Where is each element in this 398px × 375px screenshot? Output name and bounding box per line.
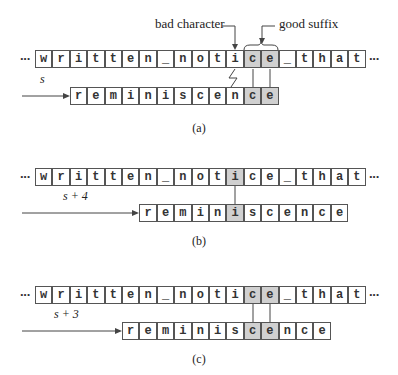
pattern-cell: i xyxy=(226,204,243,222)
text-cell: t xyxy=(296,168,313,186)
text-cell: _ xyxy=(157,50,174,68)
text-cell: r xyxy=(52,286,69,304)
text-cell: e xyxy=(122,286,139,304)
text-cell: t xyxy=(296,50,313,68)
pattern-cell: e xyxy=(261,322,278,340)
text-cell: t xyxy=(296,286,313,304)
text-cell: i xyxy=(70,168,87,186)
ellipsis-right: ··· xyxy=(369,287,379,302)
pattern-cell: e xyxy=(313,322,330,340)
text-cell: t xyxy=(348,168,365,186)
pattern-cell: r xyxy=(70,87,87,105)
pattern-cell: m xyxy=(157,322,174,340)
text-cell: o xyxy=(192,50,209,68)
text-cell: t xyxy=(348,286,365,304)
pattern-cell: i xyxy=(192,204,209,222)
text-cell: n xyxy=(139,286,156,304)
pattern-cell: n xyxy=(279,322,296,340)
text-cell: c xyxy=(244,50,261,68)
text-cell: w xyxy=(35,168,52,186)
pattern-cell: e xyxy=(139,322,156,340)
text-cell: n xyxy=(139,50,156,68)
pattern-cell: n xyxy=(209,204,226,222)
text-cell: t xyxy=(105,286,122,304)
text-cell: t xyxy=(87,168,104,186)
pattern-cell: e xyxy=(279,204,296,222)
ellipsis-left: ··· xyxy=(20,287,30,302)
pattern-cell: i xyxy=(209,322,226,340)
text-cell: n xyxy=(139,168,156,186)
text-cell: t xyxy=(105,50,122,68)
text-cell: h xyxy=(313,168,330,186)
text-cell: o xyxy=(192,286,209,304)
text-cell: t xyxy=(209,286,226,304)
text-cell: t xyxy=(209,50,226,68)
pattern-cell: e xyxy=(331,204,348,222)
text-cell: _ xyxy=(279,286,296,304)
pattern-cell: e xyxy=(157,204,174,222)
ellipsis-left: ··· xyxy=(20,169,30,184)
pattern-cell: i xyxy=(174,322,191,340)
pattern-cell: e xyxy=(87,87,104,105)
pattern-cell: n xyxy=(296,204,313,222)
text-cell: a xyxy=(331,50,348,68)
text-cell: r xyxy=(52,168,69,186)
pattern-cell: r xyxy=(122,322,139,340)
text-cell: e xyxy=(122,50,139,68)
pattern-cell: c xyxy=(244,322,261,340)
pattern-cell: c xyxy=(296,322,313,340)
text-cell: t xyxy=(87,50,104,68)
pattern-cell: s xyxy=(226,322,243,340)
text-cell: a xyxy=(331,286,348,304)
ellipsis-right: ··· xyxy=(369,51,379,66)
text-cell: i xyxy=(226,50,243,68)
pattern-cell: s xyxy=(174,87,191,105)
text-cell: e xyxy=(122,168,139,186)
text-cell: t xyxy=(348,50,365,68)
text-cell: w xyxy=(35,50,52,68)
text-cell: h xyxy=(313,50,330,68)
text-cell: e xyxy=(261,50,278,68)
text-cell: t xyxy=(87,286,104,304)
text-cell: _ xyxy=(157,168,174,186)
text-cell: e xyxy=(261,168,278,186)
pattern-cell: c xyxy=(261,204,278,222)
pattern-cell: m xyxy=(105,87,122,105)
text-cell: _ xyxy=(279,50,296,68)
pattern-cell: i xyxy=(122,87,139,105)
pattern-cell: m xyxy=(174,204,191,222)
text-cell: _ xyxy=(157,286,174,304)
text-cell: c xyxy=(244,286,261,304)
text-cell: i xyxy=(70,50,87,68)
text-cell: t xyxy=(105,168,122,186)
pattern-cell: n xyxy=(226,87,243,105)
text-cell: n xyxy=(174,168,191,186)
text-cell: i xyxy=(70,286,87,304)
pattern-cell: e xyxy=(261,87,278,105)
text-cell: n xyxy=(174,286,191,304)
text-cell: o xyxy=(192,168,209,186)
pattern-cell: c xyxy=(244,87,261,105)
pattern-cell: n xyxy=(192,322,209,340)
ellipsis-left: ··· xyxy=(20,51,30,66)
text-cell: r xyxy=(52,50,69,68)
text-cell: t xyxy=(209,168,226,186)
pattern-cell: n xyxy=(139,87,156,105)
pattern-cell: c xyxy=(313,204,330,222)
pattern-cell: e xyxy=(209,87,226,105)
pattern-cell: r xyxy=(139,204,156,222)
pattern-cell: i xyxy=(157,87,174,105)
text-cell: n xyxy=(174,50,191,68)
text-cell: i xyxy=(226,168,243,186)
text-cell: h xyxy=(313,286,330,304)
text-cell: e xyxy=(261,286,278,304)
pattern-cell: c xyxy=(192,87,209,105)
text-cell: a xyxy=(331,168,348,186)
text-cell: w xyxy=(35,286,52,304)
ellipsis-right: ··· xyxy=(369,169,379,184)
text-cell: i xyxy=(226,286,243,304)
text-cell: _ xyxy=(279,168,296,186)
text-cell: c xyxy=(244,168,261,186)
pattern-cell: s xyxy=(244,204,261,222)
